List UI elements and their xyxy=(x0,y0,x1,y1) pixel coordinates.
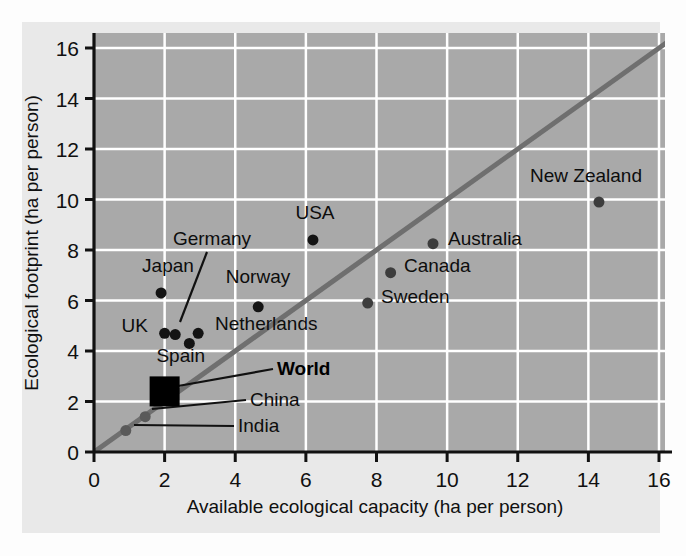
label-usa: USA xyxy=(295,202,334,223)
label-spain: Spain xyxy=(156,345,205,366)
y-tick-label: 6 xyxy=(67,290,79,313)
x-tick-label: 12 xyxy=(506,468,529,491)
chart-svg: 0246810121416 0246810121416 JapanUKGerma… xyxy=(0,0,686,556)
marker-japan[interactable] xyxy=(156,287,167,298)
label-germany: Germany xyxy=(173,228,252,249)
label-netherlands: Netherlands xyxy=(215,313,317,334)
label-uk: UK xyxy=(122,315,149,336)
marker-norway[interactable] xyxy=(253,301,264,312)
y-tick-label: 12 xyxy=(56,138,79,161)
x-tick-label: 10 xyxy=(435,468,458,491)
y-tick-label: 8 xyxy=(67,239,79,262)
label-australia: Australia xyxy=(448,228,522,249)
y-tick-label: 16 xyxy=(56,37,79,60)
marker-india[interactable] xyxy=(120,425,131,436)
label-china: China xyxy=(250,389,300,410)
marker-usa[interactable] xyxy=(307,234,318,245)
x-tick-label: 4 xyxy=(229,468,241,491)
marker-world[interactable] xyxy=(150,376,180,406)
marker-netherlands[interactable] xyxy=(193,328,204,339)
marker-canada[interactable] xyxy=(385,267,396,278)
x-tick-label: 2 xyxy=(159,468,171,491)
x-tick-label: 8 xyxy=(371,468,383,491)
marker-new-zealand[interactable] xyxy=(593,197,604,208)
x-tick-label: 6 xyxy=(300,468,312,491)
y-tick-label: 14 xyxy=(56,88,80,111)
label-india: India xyxy=(238,415,280,436)
x-tick-label: 16 xyxy=(647,468,670,491)
y-axis-tick-labels: 0246810121416 xyxy=(56,37,80,464)
marker-sweden[interactable] xyxy=(362,298,373,309)
scatter-chart: 0246810121416 0246810121416 JapanUKGerma… xyxy=(0,0,686,556)
marker-australia[interactable] xyxy=(428,238,439,249)
y-tick-label: 10 xyxy=(56,189,79,212)
label-norway: Norway xyxy=(226,266,291,287)
y-tick-label: 4 xyxy=(67,340,79,363)
label-world: World xyxy=(277,358,330,379)
x-tick-label: 0 xyxy=(88,468,100,491)
label-sweden: Sweden xyxy=(381,286,450,307)
label-new-zealand: New Zealand xyxy=(530,165,642,186)
y-axis-title: Ecological footprint (ha per person) xyxy=(21,95,42,391)
label-japan: Japan xyxy=(142,255,194,276)
label-canada: Canada xyxy=(404,255,471,276)
x-axis-title: Available ecological capacity (ha per pe… xyxy=(187,496,564,517)
marker-germany[interactable] xyxy=(170,329,181,340)
x-tick-label: 14 xyxy=(577,468,601,491)
x-axis-tick-labels: 0246810121416 xyxy=(88,468,671,491)
marker-china[interactable] xyxy=(140,411,151,422)
y-tick-label: 0 xyxy=(67,441,79,464)
marker-uk[interactable] xyxy=(159,328,170,339)
y-tick-label: 2 xyxy=(67,391,79,414)
